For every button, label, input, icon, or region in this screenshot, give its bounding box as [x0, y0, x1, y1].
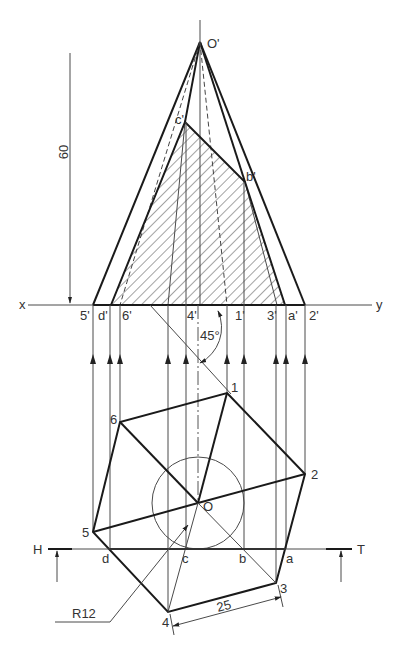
b-prime-label: b' [246, 169, 256, 184]
front-view [28, 20, 372, 305]
2-prime-label: 2' [309, 308, 319, 323]
edge-o-c [185, 42, 200, 122]
point-b-label: b [239, 551, 246, 566]
section-hatch [111, 122, 285, 305]
a-prime-label: a' [288, 308, 298, 323]
point-d-label: d [102, 551, 109, 566]
point-1-label: 1 [231, 380, 238, 395]
y-label: y [376, 297, 383, 312]
center-O-label: O [203, 499, 213, 514]
height-dimension-text: 60 [56, 145, 71, 159]
point-5-label: 5 [82, 525, 89, 540]
4-prime-label: 4' [187, 308, 197, 323]
point-4-label: 4 [162, 615, 169, 630]
x-label: x [19, 297, 26, 312]
d-prime-label: d' [98, 308, 108, 323]
angle-construction: 45° [150, 305, 231, 503]
radius-label: R12 [72, 606, 96, 621]
drawing-canvas: 60 O' x y c' b' 5' d' 6' 4' 1' 3' a' 2' [0, 0, 401, 650]
point-6-label: 6 [110, 412, 117, 427]
height-dimension: 60 [56, 53, 71, 303]
angle-label: 45° [200, 328, 220, 343]
5-prime-label: 5' [80, 308, 90, 323]
3-prime-label: 3' [267, 308, 277, 323]
c-prime-label: c' [175, 112, 184, 127]
side-dimension: 25 [170, 585, 283, 635]
point-c-label: c [182, 551, 189, 566]
point-a-label: a [286, 551, 294, 566]
side-dimension-text: 25 [215, 597, 233, 615]
plane-T-label: T [357, 542, 365, 557]
plane-H-label: H [33, 542, 42, 557]
1-prime-label: 1' [235, 308, 245, 323]
top-view [48, 393, 352, 612]
6-prime-label: 6' [122, 308, 132, 323]
point-3-label: 3 [280, 581, 287, 596]
point-2-label: 2 [311, 467, 318, 482]
apex-front-label: O' [207, 36, 220, 51]
